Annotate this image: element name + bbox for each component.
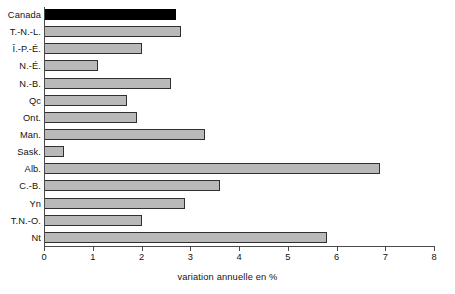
category-label: C.-B.	[19, 178, 41, 195]
bar-chart: CanadaT.-N.-L.Î.-P.-É.N.-É.N.-B.QcOnt.Ma…	[0, 0, 455, 294]
x-axis-tick-label: 1	[78, 252, 108, 262]
x-axis-tick	[239, 247, 240, 251]
bar	[44, 180, 220, 191]
x-axis-tick-label: 4	[224, 252, 254, 262]
bar	[44, 43, 142, 54]
x-axis-tick	[142, 247, 143, 251]
bar	[44, 112, 137, 123]
bar	[44, 198, 185, 209]
category-label: Canada	[8, 7, 41, 24]
category-label: T.-N.-L.	[10, 24, 41, 41]
bar-row	[44, 144, 434, 161]
x-axis-tick-label: 3	[175, 252, 205, 262]
category-label: Nt	[32, 230, 42, 247]
bar-row	[44, 213, 434, 230]
x-axis-tick	[385, 247, 386, 251]
bar	[44, 60, 98, 71]
x-axis-tick-label: 0	[29, 252, 59, 262]
x-axis-tick	[93, 247, 94, 251]
bar-row	[44, 230, 434, 247]
bar-row	[44, 161, 434, 178]
bar-row	[44, 110, 434, 127]
category-label: Qc	[29, 93, 41, 110]
bar-row	[44, 7, 434, 24]
bar	[44, 129, 205, 140]
x-axis-tick	[434, 247, 435, 251]
x-axis-tick-label: 6	[322, 252, 352, 262]
x-axis-tick-label: 2	[127, 252, 157, 262]
x-axis-tick	[337, 247, 338, 251]
bar	[44, 146, 64, 157]
bar	[44, 163, 380, 174]
category-axis: CanadaT.-N.-L.Î.-P.-É.N.-É.N.-B.QcOnt.Ma…	[0, 7, 41, 247]
category-label: Man.	[20, 127, 41, 144]
bar-row	[44, 127, 434, 144]
bar-row	[44, 58, 434, 75]
bar-row	[44, 93, 434, 110]
bar-row	[44, 196, 434, 213]
x-axis-tick	[190, 247, 191, 251]
x-axis-tick	[44, 247, 45, 251]
bar	[44, 9, 176, 20]
bar	[44, 26, 181, 37]
bar	[44, 78, 171, 89]
bar	[44, 95, 127, 106]
category-label: Sask.	[17, 144, 41, 161]
bar-row	[44, 76, 434, 93]
category-label: Ont.	[23, 110, 41, 127]
category-label: N.-B.	[19, 76, 41, 93]
x-axis-tick-label: 8	[419, 252, 449, 262]
bar	[44, 232, 327, 243]
y-axis-line	[44, 7, 45, 247]
category-label: Î.-P.-É.	[12, 41, 41, 58]
category-label: N.-É.	[19, 58, 41, 75]
plot-area	[44, 7, 434, 247]
bar-row	[44, 24, 434, 41]
category-label: T.N.-O.	[11, 213, 41, 230]
bar-row	[44, 41, 434, 58]
x-axis-tick-label: 7	[370, 252, 400, 262]
category-label: Yn	[29, 196, 41, 213]
category-label: Alb.	[25, 161, 41, 178]
x-axis-title: variation annuelle en %	[0, 272, 455, 282]
bar	[44, 215, 142, 226]
x-axis-tick-label: 5	[273, 252, 303, 262]
x-axis-tick	[288, 247, 289, 251]
bar-row	[44, 178, 434, 195]
